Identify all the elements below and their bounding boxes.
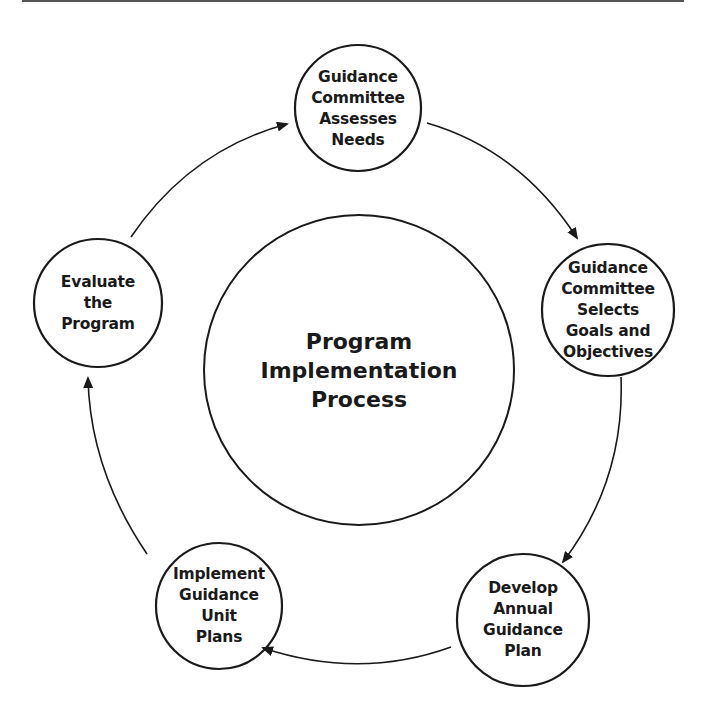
node-assess-needs: Guidance Committee Assesses Needs	[298, 50, 418, 168]
node-label-line: Selects	[577, 300, 639, 321]
node-label-line: Unit	[201, 606, 237, 627]
node-label-line: Guidance	[318, 67, 398, 88]
node-label-line: the	[84, 293, 112, 314]
node-label-line: Evaluate	[61, 272, 135, 293]
node-label-line: Plan	[504, 641, 541, 662]
arrow-develop-to-implement	[263, 647, 451, 664]
node-evaluate-program: Evaluate the Program	[38, 250, 158, 356]
node-label-line: Committee	[311, 88, 405, 109]
node-label-line: Program	[61, 314, 135, 335]
arrow-evaluate-to-assess	[131, 124, 287, 237]
node-develop-plan: Develop Annual Guidance Plan	[463, 562, 583, 678]
node-label-line: Guidance	[568, 258, 648, 279]
node-label-line: Guidance	[179, 585, 259, 606]
node-select-goals: Guidance Committee Selects Goals and Obj…	[545, 250, 671, 370]
node-implement-plans: Implement Guidance Unit Plans	[159, 548, 279, 664]
node-label-line: Annual	[493, 599, 553, 620]
center-label-line: Implementation	[260, 356, 457, 385]
center-label: Program Implementation Process	[224, 310, 494, 430]
node-label-line: Guidance	[483, 620, 563, 641]
arrow-assess-to-select	[427, 123, 577, 238]
node-label-line: Needs	[331, 130, 384, 151]
center-label-line: Program	[306, 327, 412, 356]
center-label-line: Process	[311, 385, 407, 414]
node-label-line: Committee	[561, 279, 655, 300]
node-label-line: Develop	[488, 578, 558, 599]
node-label-line: Objectives	[563, 342, 653, 363]
node-label-line: Assesses	[319, 109, 397, 130]
arrow-implement-to-evaluate	[88, 378, 147, 554]
arrow-select-to-develop	[563, 377, 621, 562]
node-label-line: Implement	[173, 564, 265, 585]
node-label-line: Goals and	[566, 321, 651, 342]
node-label-line: Plans	[196, 627, 242, 648]
